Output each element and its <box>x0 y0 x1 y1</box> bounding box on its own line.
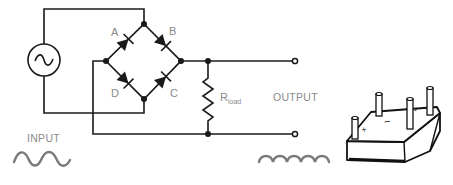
wire-bottom-source <box>44 76 144 113</box>
package-pin-1 <box>352 117 358 140</box>
load-resistor-icon <box>203 61 213 134</box>
diode-a-label: A <box>111 26 119 38</box>
output-terminal-positive <box>292 58 297 63</box>
diode-c-label: C <box>170 87 178 99</box>
junction-right <box>178 58 184 64</box>
bridge-rectifier-diagram: A B D C Rload OUTPUT INPUT <box>0 0 453 185</box>
junction-top <box>141 21 147 27</box>
junction-bottom <box>141 96 147 102</box>
resistor-label: Rload <box>220 91 241 105</box>
input-sine-wave-icon <box>14 152 70 166</box>
ac-source-icon <box>28 44 60 76</box>
bridge-rectifier-package-icon: + ~ - <box>347 87 440 163</box>
input-label: INPUT <box>27 132 60 144</box>
output-label: OUTPUT <box>273 91 318 103</box>
output-rectified-wave-icon <box>259 156 329 162</box>
package-pin-4 <box>427 87 433 116</box>
output-terminal-negative <box>292 131 297 136</box>
junction-left <box>103 58 109 64</box>
diode-d-label: D <box>111 87 119 99</box>
diode-b-label: B <box>169 25 176 37</box>
wire-negative <box>93 61 294 134</box>
package-pin-2 <box>376 93 382 117</box>
package-pin-3 <box>407 98 413 130</box>
